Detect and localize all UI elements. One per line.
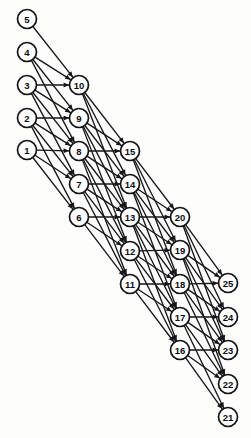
node-label: 3	[24, 80, 29, 91]
node-label: 22	[223, 379, 234, 390]
node-label: 19	[175, 245, 186, 256]
node-label: 24	[223, 312, 234, 323]
edge-arrowhead	[213, 281, 218, 286]
graph-edge	[33, 26, 73, 77]
graph-edge	[188, 255, 220, 277]
graph-node-10[interactable]: 10	[70, 76, 89, 95]
graph-node-13[interactable]: 13	[121, 208, 140, 227]
edge-arrowhead	[64, 83, 69, 88]
node-label: 15	[125, 146, 136, 157]
node-label: 23	[223, 345, 234, 356]
node-label: 14	[125, 179, 136, 190]
graph-node-17[interactable]: 17	[171, 308, 190, 327]
graph-edge	[33, 158, 73, 210]
graph-node-11[interactable]: 11	[121, 275, 140, 294]
graph-node-1[interactable]: 1	[18, 141, 37, 160]
graph-node-21[interactable]: 21	[219, 408, 238, 427]
node-label: 13	[125, 212, 136, 223]
graph-node-24[interactable]: 24	[219, 308, 238, 327]
graph-node-22[interactable]: 22	[219, 375, 238, 394]
node-label: 20	[175, 212, 186, 223]
edge-arrowhead	[115, 149, 120, 154]
graph-node-5[interactable]: 5	[18, 10, 37, 29]
node-label: 10	[74, 80, 85, 91]
node-label: 21	[223, 412, 234, 423]
node-label: 4	[24, 47, 30, 58]
graph-node-2[interactable]: 2	[18, 109, 37, 128]
node-label: 16	[175, 345, 186, 356]
node-label: 11	[125, 279, 136, 290]
graph-node-9[interactable]: 9	[70, 109, 89, 128]
node-label: 2	[24, 113, 29, 124]
graph-node-3[interactable]: 3	[18, 76, 37, 95]
graph-node-7[interactable]: 7	[70, 175, 89, 194]
graph-node-20[interactable]: 20	[171, 208, 190, 227]
graph-node-18[interactable]: 18	[171, 275, 190, 294]
graph-svg: 5432110987615141312112019181716252423222…	[0, 0, 251, 438]
node-label: 18	[175, 279, 186, 290]
node-label: 17	[175, 312, 186, 323]
graph-node-12[interactable]: 12	[121, 242, 140, 261]
node-label: 6	[76, 212, 81, 223]
edge-arrowhead	[64, 116, 69, 121]
node-label: 12	[125, 246, 136, 257]
graph-node-23[interactable]: 23	[219, 341, 238, 360]
node-label: 8	[76, 146, 81, 157]
node-label: 9	[76, 113, 81, 124]
edge-arrowhead	[165, 215, 170, 220]
graph-edge	[188, 322, 220, 344]
node-label: 1	[24, 145, 30, 156]
diagram-canvas: 5432110987615141312112019181716252423222…	[0, 0, 251, 438]
graph-node-19[interactable]: 19	[171, 241, 190, 260]
node-layer: 5432110987615141312112019181716252423222…	[18, 10, 238, 427]
graph-node-6[interactable]: 6	[70, 208, 89, 227]
graph-node-4[interactable]: 4	[18, 43, 37, 62]
graph-node-25[interactable]: 25	[219, 274, 238, 293]
graph-node-16[interactable]: 16	[171, 341, 190, 360]
node-label: 5	[24, 14, 30, 25]
graph-node-15[interactable]: 15	[121, 142, 140, 161]
edge-arrowhead	[64, 148, 69, 153]
graph-node-8[interactable]: 8	[70, 142, 89, 161]
node-label: 7	[76, 179, 81, 190]
graph-node-14[interactable]: 14	[121, 175, 140, 194]
node-label: 25	[223, 278, 234, 289]
